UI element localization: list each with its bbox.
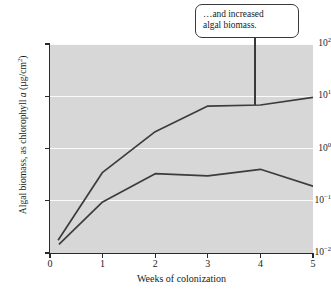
- figure-root: 10−210−1100101102 012345 Algal biomass, …: [0, 0, 331, 297]
- x-axis-title: Weeks of colonization: [50, 274, 313, 284]
- callout-line-2: algal biomass.: [203, 20, 292, 31]
- data-curves: [0, 0, 331, 297]
- callout-box: …and increased algal biomass.: [195, 4, 299, 38]
- callout-leader-line: [254, 38, 256, 105]
- callout-line-1: …and increased: [203, 9, 292, 20]
- y-axis-title: Algal biomass, as chlorophyll a (µg/cm2): [18, 20, 28, 250]
- series-line-upper-curve: [58, 97, 313, 239]
